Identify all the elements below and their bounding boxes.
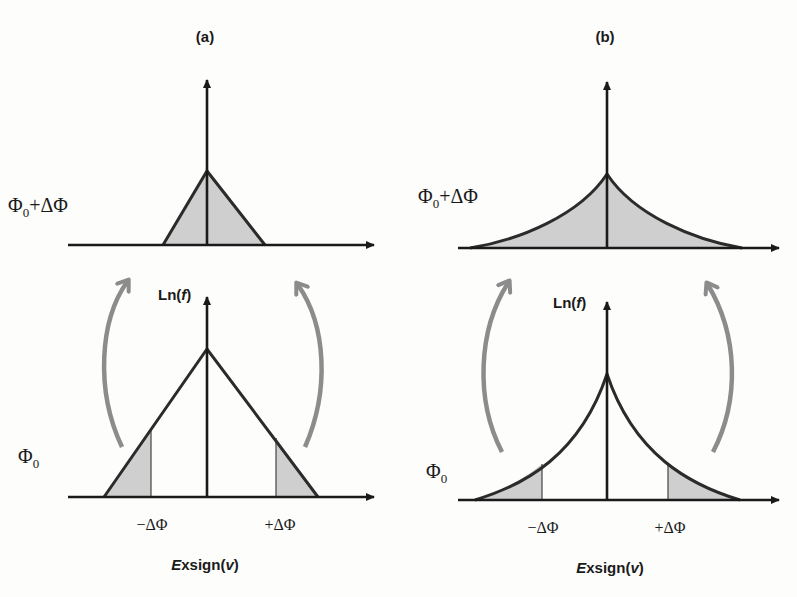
y-axis-label: Ln(f) — [553, 294, 586, 311]
panel-a: (a) Φ0+ΔΦ Ln(f) Φ0 −ΔΦ +ΔΦ Exsign(v) — [8, 28, 374, 573]
level-label-phi0: Φ0 — [18, 445, 39, 471]
panel-b-top-plot: Φ0+ΔΦ — [418, 82, 779, 248]
x-axis-label: Exsign(v) — [576, 559, 644, 576]
level-label-phi0-plus-dphi: Φ0+ΔΦ — [8, 194, 68, 220]
panel-a-bottom-plot: Ln(f) Φ0 −ΔΦ +ΔΦ Exsign(v) — [18, 286, 374, 573]
tick-plus-dphi: +ΔΦ — [654, 519, 685, 536]
transition-arrow-left — [483, 283, 508, 452]
transition-arrow-right — [298, 285, 322, 447]
tick-minus-dphi: −ΔΦ — [136, 516, 167, 533]
level-label-phi0: Φ0 — [426, 460, 447, 486]
level-label-phi0-plus-dphi: Φ0+ΔΦ — [418, 185, 478, 211]
panel-b-title: (b) — [595, 28, 614, 45]
diagram-canvas: (a) Φ0+ΔΦ Ln(f) Φ0 −ΔΦ +ΔΦ Exsign(v) — [0, 0, 797, 597]
tick-minus-dphi: −ΔΦ — [527, 519, 558, 536]
tick-plus-dphi: +ΔΦ — [264, 516, 295, 533]
transition-arrow-left — [104, 282, 127, 447]
panel-b: (b) Φ0+ΔΦ Ln(f) Φ0 −ΔΦ +ΔΦ Exsign(v) — [418, 28, 779, 576]
x-axis-label: Exsign(v) — [171, 556, 239, 573]
y-axis-label: Ln(f) — [158, 286, 191, 303]
panel-a-title: (a) — [196, 28, 214, 45]
panel-a-top-plot: Φ0+ΔΦ — [8, 80, 374, 245]
transition-arrow-right — [708, 285, 732, 452]
shaded-tail-right — [668, 463, 740, 500]
shaded-tail-left — [475, 464, 542, 500]
